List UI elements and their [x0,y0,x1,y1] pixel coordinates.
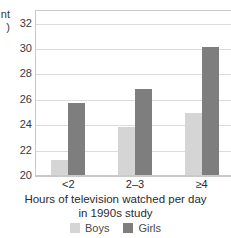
x-axis-tick-labels: <22–3≥4 [35,178,231,192]
x-axis-tick-label: ≥4 [196,178,208,190]
bars-layer [35,10,231,175]
bar-girls [68,103,85,175]
bar-girls [135,89,152,175]
x-axis-line [35,175,231,177]
y-axis-tick-label: 24 [6,118,32,130]
y-axis-tick-label: 20 [6,169,32,181]
bar-chart-figure: nt ) 20222426283032 <22–3≥4 Hours of tel… [0,0,231,238]
bar-group [168,10,231,175]
x-axis-title-line2: in 1990s study [0,207,231,221]
x-axis-title-line1: Hours of television watched per day [0,193,231,207]
bar-girls [202,47,219,175]
y-axis-tick-label: 30 [6,42,32,54]
bar-boys [185,113,202,175]
x-axis-tick-label: <2 [62,178,75,190]
bar-boys [51,160,68,175]
legend-label-girls: Girls [138,222,161,234]
chart-legend: Boys Girls [0,222,231,234]
bar-boys [118,127,135,175]
y-axis-tick-label: 22 [6,144,32,156]
bar-group [102,10,169,175]
legend-item-boys: Boys [70,222,109,234]
legend-swatch-boys-icon [70,223,80,233]
legend-label-boys: Boys [85,222,109,234]
y-axis-tick-label: 26 [6,93,32,105]
legend-item-girls: Girls [123,222,161,234]
y-axis-tick-label: 32 [6,17,32,29]
y-axis-tick-labels: 20222426283032 [0,10,32,175]
x-axis-title: Hours of television watched per day in 1… [0,193,231,220]
x-axis-tick-label: 2–3 [126,178,144,190]
bar-group [35,10,102,175]
legend-swatch-girls-icon [123,223,133,233]
y-axis-tick-label: 28 [6,67,32,79]
